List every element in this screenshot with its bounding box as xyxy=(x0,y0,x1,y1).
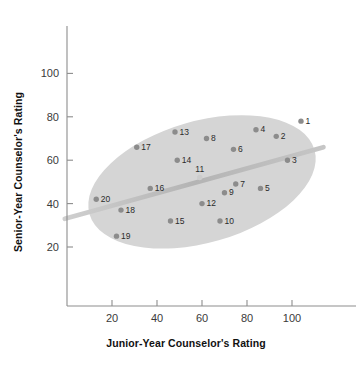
point-marker xyxy=(168,218,173,223)
point-label: 4 xyxy=(261,124,266,134)
point-label: 20 xyxy=(101,194,111,204)
y-tick-label: 80 xyxy=(47,111,59,123)
point-label: 9 xyxy=(229,187,234,197)
point-marker xyxy=(285,158,290,163)
x-tick-label: 20 xyxy=(106,312,118,324)
point-label: 11 xyxy=(195,164,204,174)
point-marker xyxy=(253,127,258,132)
point-marker xyxy=(94,197,99,202)
y-tick-label: 40 xyxy=(47,198,59,210)
point-marker xyxy=(118,207,123,212)
point-label: 5 xyxy=(265,183,270,193)
point-marker xyxy=(148,186,153,191)
point-marker xyxy=(204,136,209,141)
point-label: 12 xyxy=(207,198,217,208)
point-label: 8 xyxy=(211,133,216,143)
point-label: 18 xyxy=(126,205,136,215)
point-label: 15 xyxy=(175,216,185,226)
point-marker xyxy=(197,175,202,180)
y-tick-label: 100 xyxy=(41,67,59,79)
y-tick-label: 60 xyxy=(47,154,59,166)
x-tick-label: 60 xyxy=(196,312,208,324)
x-axis-title: Junior-Year Counselor's Rating xyxy=(106,337,266,349)
scatter-plot-figure: 2040608010020406080100 12345678910111213… xyxy=(0,0,363,365)
point-label: 17 xyxy=(141,142,151,152)
point-marker xyxy=(222,190,227,195)
point-label: 13 xyxy=(180,127,190,137)
x-tick-label: 100 xyxy=(283,312,301,324)
chart-canvas: 2040608010020406080100 12345678910111213… xyxy=(0,0,363,365)
point-label: 16 xyxy=(155,183,165,193)
point-label: 7 xyxy=(240,179,245,189)
point-label: 1 xyxy=(306,116,311,126)
point-marker xyxy=(298,118,303,123)
point-marker xyxy=(233,181,238,186)
point-marker xyxy=(258,186,263,191)
point-label: 6 xyxy=(238,144,243,154)
point-label: 2 xyxy=(281,131,286,141)
x-tick-label: 40 xyxy=(151,312,163,324)
y-tick-label: 20 xyxy=(47,241,59,253)
point-marker xyxy=(217,218,222,223)
point-marker xyxy=(134,144,139,149)
data-point: 1 xyxy=(298,116,310,126)
x-tick-label: 80 xyxy=(241,312,253,324)
point-marker xyxy=(199,201,204,206)
point-marker xyxy=(172,129,177,134)
point-marker xyxy=(114,233,119,238)
y-axis-title: Senior-Year Counselor's Rating xyxy=(12,92,24,252)
point-label: 3 xyxy=(292,155,297,165)
point-label: 19 xyxy=(121,231,131,241)
point-marker xyxy=(231,147,236,152)
point-marker xyxy=(175,158,180,163)
point-label: 14 xyxy=(182,155,192,165)
point-marker xyxy=(274,134,279,139)
point-label: 10 xyxy=(225,216,235,226)
